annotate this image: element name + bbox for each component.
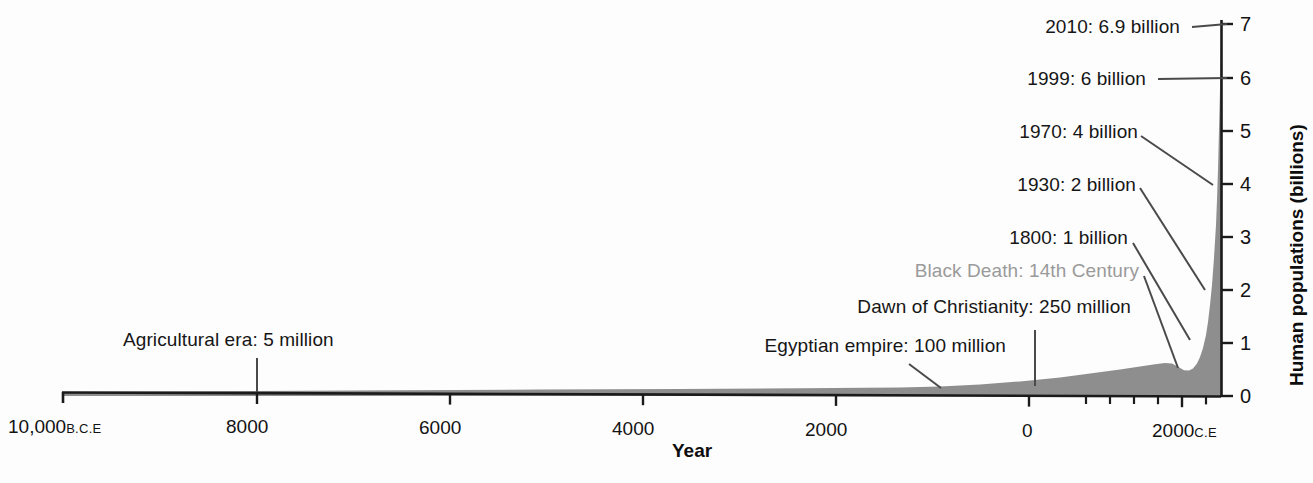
annotation-dawn-christianity: Dawn of Christianity: 250 million	[700, 296, 1131, 318]
annotation-1999: 1999: 6 billion	[880, 68, 1146, 90]
ytick-2: 2	[1240, 279, 1251, 302]
ytick-6: 6	[1240, 67, 1251, 90]
xtick-2000-ce: 2000C.E	[1152, 420, 1217, 442]
annotation-1930: 1930: 2 billion	[880, 174, 1136, 196]
ytick-1: 1	[1240, 332, 1251, 355]
annotation-egyptian-empire: Egyptian empire: 100 million	[640, 335, 1006, 357]
xtick-0: 0	[1022, 420, 1033, 442]
xtick-4000: 4000	[612, 418, 654, 440]
ytick-4: 4	[1240, 173, 1251, 196]
annotation-2010: 2010: 6.9 billion	[880, 16, 1180, 38]
annotation-1800: 1800: 1 billion	[860, 227, 1128, 249]
xtick-8000: 8000	[226, 416, 268, 438]
population-growth-chart: 2010: 6.9 billion 1999: 6 billion 1970: …	[0, 0, 1313, 483]
annotation-agricultural-era: Agricultural era: 5 million	[123, 329, 334, 351]
leader-line-egyptian	[909, 364, 941, 388]
leader-line-1970	[1141, 136, 1213, 185]
xtick-2000-bce: 2000	[805, 419, 847, 441]
leader-line-1930	[1140, 188, 1205, 290]
xtick-10000-bce: 10,000B.C.E	[8, 416, 102, 438]
leader-line-1999	[1158, 78, 1227, 79]
annotation-1970: 1970: 4 billion	[880, 121, 1138, 143]
ytick-3: 3	[1240, 226, 1251, 249]
y-axis-title: Human populations (billions)	[1286, 124, 1308, 386]
ytick-5: 5	[1240, 120, 1251, 143]
ytick-7: 7	[1240, 13, 1251, 36]
x-axis-title: Year	[672, 440, 712, 462]
annotation-black-death: Black Death: 14th Century	[810, 260, 1139, 282]
y-axis-ticks	[1221, 24, 1233, 396]
ytick-0: 0	[1240, 385, 1251, 408]
xtick-6000: 6000	[419, 417, 461, 439]
